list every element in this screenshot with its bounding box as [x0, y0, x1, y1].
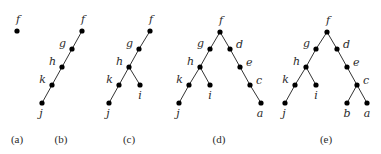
node-label-k: k	[176, 73, 183, 86]
node-label-h: h	[187, 55, 194, 68]
node-i	[207, 82, 212, 87]
node-label-g: g	[59, 37, 66, 50]
node-label-h: h	[49, 55, 56, 68]
node-label-k: k	[282, 73, 289, 86]
node-label-g: g	[197, 37, 204, 50]
node-label-e: e	[353, 56, 360, 69]
tree-diagram: f(a)fghkj(b)fghkij(c)fgdhekicja(d)fgdhek…	[0, 0, 381, 154]
node-c	[354, 82, 359, 87]
node-i	[313, 82, 318, 87]
node-h	[59, 64, 64, 69]
node-label-c: c	[363, 74, 369, 87]
node-label-i: i	[208, 89, 212, 102]
node-h	[126, 64, 131, 69]
caption-d: (d)	[213, 133, 226, 146]
node-e	[344, 64, 349, 69]
background	[0, 0, 381, 154]
node-label-i: i	[314, 89, 318, 102]
node-j	[106, 100, 111, 105]
node-d	[227, 46, 232, 51]
node-label-c: c	[256, 74, 262, 87]
node-label-d: d	[236, 38, 243, 51]
node-label-a: a	[257, 107, 264, 120]
node-label-k: k	[106, 73, 113, 86]
node-label-k: k	[39, 73, 46, 86]
node-b	[344, 100, 349, 105]
node-k	[292, 82, 297, 87]
node-h	[197, 64, 202, 69]
node-label-d: d	[343, 38, 350, 51]
node-f	[217, 29, 222, 34]
node-f	[147, 28, 152, 33]
node-j	[176, 100, 181, 105]
node-label-b: b	[343, 107, 350, 120]
node-a	[258, 100, 263, 105]
caption-b: (b)	[55, 133, 68, 146]
node-j	[282, 100, 287, 105]
node-i	[137, 82, 142, 87]
caption-e: (e)	[320, 133, 333, 146]
node-g	[69, 46, 74, 51]
node-label-h: h	[116, 55, 123, 68]
node-c	[247, 82, 252, 87]
node-f	[79, 28, 84, 33]
caption-c: (c)	[123, 133, 136, 146]
node-k	[186, 82, 191, 87]
node-label-i: i	[138, 89, 142, 102]
node-label-h: h	[293, 55, 300, 68]
node-f	[324, 29, 329, 34]
node-d	[334, 46, 339, 51]
node-k	[116, 82, 121, 87]
node-f	[14, 28, 19, 33]
tree-sequence-figure: f(a)fghkj(b)fghkij(c)fgdhekicja(d)fgdhek…	[0, 0, 381, 154]
node-label-e: e	[246, 56, 253, 69]
node-label-g: g	[126, 37, 133, 50]
node-label-a: a	[364, 107, 371, 120]
node-h	[303, 64, 308, 69]
node-a	[364, 100, 369, 105]
caption-a: (a)	[11, 133, 24, 146]
node-label-g: g	[303, 37, 310, 50]
node-g	[207, 46, 212, 51]
node-k	[49, 82, 54, 87]
node-g	[313, 46, 318, 51]
node-e	[237, 64, 242, 69]
node-g	[136, 46, 141, 51]
node-j	[39, 100, 44, 105]
